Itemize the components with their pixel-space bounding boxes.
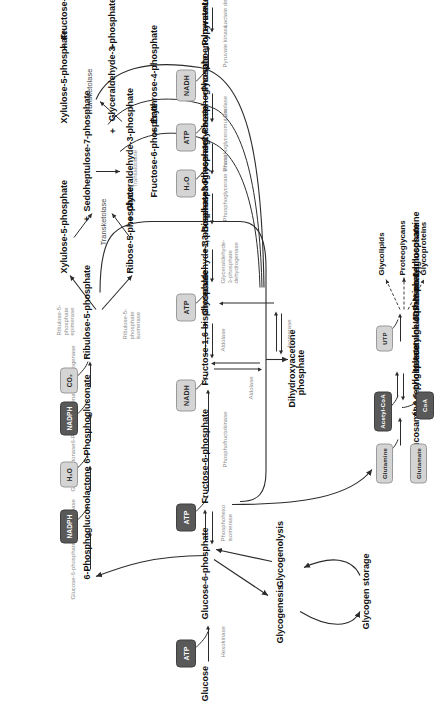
metabolite-fructose-6-phosphate: Fructose-6-phosphate (201, 408, 210, 503)
cofactor-atp-pyruvate-kinase: ATP (176, 123, 196, 151)
metabolite-glucose: Glucose (201, 665, 210, 701)
cofactor-acetyl-coa: Acetyl-CoA (374, 391, 392, 431)
enzyme-isomerase: Isomerase (286, 319, 293, 347)
cofactor-co2-ppp: CO₂ (60, 367, 78, 393)
cofactor-glutamine: Glutamine (376, 443, 393, 483)
plus-sign-1: + (82, 216, 92, 221)
plus-sign-5: + (60, 44, 70, 49)
enzyme-transaldolase: Transaldolase (132, 150, 139, 187)
enzyme-transketolase-2: Transketolase (86, 68, 94, 115)
edge-g6p-to-glycogenesis (214, 559, 268, 595)
cofactor-coa: CoA (416, 391, 434, 419)
enzyme-aldolase-a: Aldolase (220, 328, 227, 351)
product-glycoproteins: Glycoproteins (420, 221, 428, 275)
enzyme-ribulose-5-phosphate-epimerase: Ribulose-5-phosphate epimerase (56, 283, 76, 335)
metabolite-erythrose-4-phosphate: Erythrose-4-phosphate (150, 24, 159, 123)
metabolite-glucose-6-phosphate: Glucose-6-phosphate (201, 527, 210, 619)
product-glycolipids: Glycolipids (378, 232, 386, 275)
metabolite-dihydroxyacetone-phosphate: Dihydroxyacetone phosphate (288, 337, 307, 407)
metabolite-glyceraldehyde-3-phosphate-ppp2: Glyceraldehyde-3-phosphate (108, 0, 117, 121)
cofactor-nadph-2: NADPH (60, 401, 78, 435)
enzyme-lactate-dehydrogenase: Lactate dehydrogenase (222, 0, 229, 27)
enzyme-pyruvate-kinase: Pyruvate kinase (222, 24, 229, 67)
metabolite-ribulose-5-phosphate: Ribulose-5-phosphate (83, 264, 92, 359)
edge-f6p-to-hexosamine (232, 469, 372, 504)
cofactor-glutamate: Glutamate (410, 443, 427, 483)
process-glycogenolysis: Glycogenolysis (276, 520, 285, 587)
process-glycogenesis: Glycogenesis (276, 584, 285, 643)
cofactor-h2o-ppp: H₂O (60, 461, 78, 487)
metabolite-glycogen-storage: Glycogen storage (362, 553, 371, 629)
product-proteoglycans: Proteoglycans (399, 220, 407, 275)
cofactor-h2o-enolase: H₂O (176, 169, 196, 197)
enzyme-gapdh: Glyceraldehyde-3-phosphate dehydrogenase (220, 235, 240, 283)
edge-glycogenesis-to-storage (300, 611, 360, 624)
enzyme-phosphoglyceromutase: Phosphoglyceromutase (222, 108, 229, 171)
arrowhead (206, 625, 210, 629)
edge-glucose-g6p (208, 627, 209, 661)
cofactor-atp-pgk: ATP (176, 293, 196, 321)
metabolite-pyruvate: Pyruvate (201, 7, 210, 45)
edge-glycogenolysis-to-g6p (216, 549, 272, 561)
metabolite-lactate: Lactate (201, 0, 210, 5)
enzyme-phosphofructokinase: Phosphofructokinase (222, 411, 229, 467)
edge-g6p-to-ppp (96, 555, 206, 576)
plus-sign-2: + (126, 216, 136, 221)
enzyme-phosphohexo-isomerase: Phosphohexo isomerase (220, 497, 233, 541)
enzyme-enolase: Enolase (222, 95, 229, 117)
enzyme-hexokinase: Hexokinase (220, 626, 227, 657)
edge-udp-to-glycolipids (386, 279, 400, 309)
metabolite-6-phosphogluconate: 6-Phosphogluconate (83, 374, 92, 463)
plus-sign-3: + (150, 128, 160, 133)
edge-storage-to-glycogenolysis (304, 559, 360, 575)
metabolite-xylulose-5-phosphate: Xylulose-5-phosphate (60, 179, 69, 273)
metabolite-6-phosphogluconolactone: 6-Phosphogluconolactone (83, 466, 92, 579)
cofactor-utp: UTP (376, 325, 393, 351)
plus-sign-4: + (108, 128, 118, 133)
cofactor-atp-pfk: ATP (176, 503, 196, 531)
cofactor-nadph-1: NADPH (60, 509, 78, 543)
plus-sign-6: + (108, 44, 118, 49)
pathway-canvas: Glucose Glucose-6-phosphate Fructose-6-p… (0, 0, 440, 707)
cofactor-nadh-ldh: NADH (176, 69, 196, 101)
figure-root: Glucose Glucose-6-phosphate Fructose-6-p… (0, 0, 440, 707)
enzyme-transketolase-1: Transketolase (100, 198, 108, 245)
cofactor-atp-hexokinase: ATP (176, 639, 196, 667)
enzyme-aldolase-b: Aldolase (248, 376, 255, 399)
metabolite-fructose-6-phosphate-ppp2: Fructose-6-phosphate (60, 0, 69, 39)
cofactor-nadh-gapdh: NADH (176, 379, 196, 411)
enzyme-ribulose-5-phosphate-isomerase: Ribulose-5-phosphate isomerase (122, 287, 142, 339)
